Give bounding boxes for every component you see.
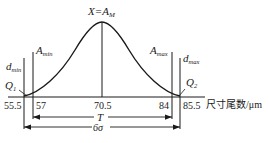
d-min-label: dmin — [6, 60, 21, 73]
q1-leader — [19, 90, 27, 96]
d-max-label: dmax — [183, 52, 199, 65]
q1-label: Q1 — [5, 79, 16, 92]
x-axis-label: 尺寸尾数/μm — [206, 98, 262, 110]
tick-70-5: 70.5 — [94, 100, 112, 111]
tick-85-5: 85.5 — [183, 100, 201, 111]
q2-label: Q2 — [186, 76, 198, 89]
six-sigma-label: 6σ — [93, 122, 104, 133]
tick-57: 57 — [36, 100, 46, 111]
tick-55-5: 55.5 — [4, 100, 22, 111]
a-max-label: Amax — [149, 44, 168, 57]
a-min-label: Amin — [35, 44, 52, 57]
peak-label: X=AM — [87, 5, 116, 19]
distribution-diagram: X=AM dmin Amin Amax dmax Q1 Q2 55.5 57 7… — [0, 0, 270, 143]
tick-84: 84 — [159, 100, 169, 111]
